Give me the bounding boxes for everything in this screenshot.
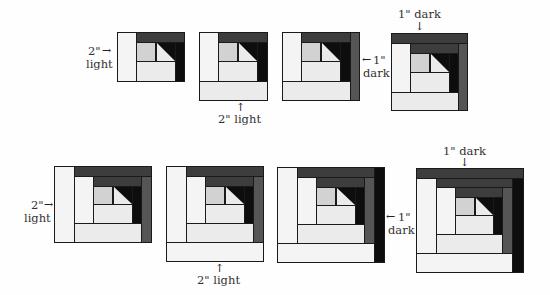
center-square — [410, 53, 430, 73]
light-strip-bottom — [391, 92, 459, 111]
light-strip — [455, 215, 494, 235]
light-strip-bottom — [277, 243, 375, 263]
quilt-diagram: 2" → light ↑ 2" light ← 1" dark — [0, 0, 550, 295]
center-triangle — [337, 188, 355, 205]
center-square — [136, 42, 156, 62]
center-triangle — [476, 198, 493, 215]
light-strip-inner-left — [297, 177, 317, 225]
light-strip-left — [277, 167, 298, 244]
light-strip-left — [54, 166, 75, 243]
light-strip — [410, 72, 450, 93]
center-triangle — [322, 43, 340, 61]
center-triangle — [431, 54, 449, 72]
light-strip-left — [391, 43, 411, 93]
dark-strip-right — [141, 176, 152, 243]
light-strip-left — [416, 178, 437, 254]
light-strip-bottom — [282, 81, 351, 101]
light-strip-inner-bottom — [74, 223, 142, 243]
dark-strip-top — [136, 32, 185, 43]
dark-strip-inner-top — [410, 43, 459, 54]
label-r2-1-line2: light — [24, 212, 51, 224]
center-triangle — [114, 187, 132, 204]
light-strip — [218, 61, 258, 82]
dark-strip-top — [301, 32, 351, 43]
arrow-right-icon: → — [44, 199, 53, 210]
center-square — [93, 186, 113, 205]
light-strip — [301, 61, 341, 82]
label-r2-2: 2" light — [197, 274, 240, 286]
arrow-down-icon: ↓ — [460, 157, 469, 168]
light-strip-inner-bottom — [297, 224, 365, 244]
light-strip-bottom — [136, 61, 176, 82]
dark-strip-top — [416, 168, 524, 179]
light-strip-inner-bottom — [186, 223, 254, 243]
dark-strip-top — [218, 32, 268, 43]
light-strip — [316, 205, 356, 225]
light-strip — [93, 204, 133, 224]
center-triangle — [226, 187, 244, 204]
label-r2-3-line2: dark — [388, 224, 415, 236]
light-strip-inner-left — [74, 176, 94, 224]
light-strip-inner-bottom — [436, 234, 503, 254]
arrow-left-icon: ← — [386, 211, 395, 222]
light-strip-inner-left — [436, 187, 456, 235]
label-r1-1-line2: light — [86, 58, 113, 70]
center-triangle — [157, 43, 175, 61]
dark-strip-inner-top — [93, 176, 142, 187]
label-r1-2: 2" light — [218, 113, 261, 125]
dark-strip-top — [74, 166, 152, 177]
dark-strip-right — [257, 42, 268, 82]
arrow-down-icon: ↓ — [415, 21, 424, 32]
light-strip-left — [199, 32, 219, 82]
dark-strip-right — [175, 42, 185, 82]
dark-strip-right — [512, 178, 524, 273]
dark-strip-top — [391, 33, 468, 44]
label-r2-3-line1: 1" — [398, 211, 411, 223]
light-strip-left — [166, 166, 187, 243]
center-triangle — [239, 43, 257, 61]
label-r1-4: 1" dark — [398, 8, 441, 20]
light-strip-bottom — [416, 253, 513, 273]
dark-strip-right — [374, 167, 385, 263]
label-r1-3-line2: dark — [363, 67, 390, 79]
dark-strip-top — [186, 166, 264, 177]
arrow-left-icon: ← — [362, 54, 371, 65]
light-strip-left — [282, 32, 302, 82]
light-strip-left — [117, 32, 137, 82]
center-square — [218, 42, 238, 62]
center-square — [205, 186, 225, 205]
dark-strip-inner-top — [205, 176, 254, 187]
label-r2-1-line1: 2" — [31, 199, 44, 211]
center-square — [301, 42, 321, 62]
dark-strip-right — [253, 176, 264, 243]
dark-strip-top — [297, 167, 375, 178]
dark-strip-inner-top — [316, 177, 365, 188]
center-square — [455, 197, 475, 216]
dark-strip-right — [458, 43, 468, 111]
dark-strip-right — [350, 32, 360, 101]
dark-strip-inner-top — [455, 187, 503, 198]
dark-strip-inner-top-2 — [436, 178, 513, 188]
label-r1-1-line1: 2" — [88, 45, 101, 57]
light-strip-inner-left — [186, 176, 206, 224]
label-r1-3-line1: 1" — [373, 54, 386, 66]
arrow-right-icon: → — [102, 45, 111, 56]
light-strip — [205, 204, 245, 224]
light-strip-bottom — [166, 242, 264, 262]
light-strip-bottom — [199, 81, 268, 101]
center-square — [316, 187, 336, 206]
